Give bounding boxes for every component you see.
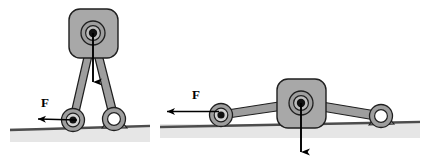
right-roller-joint: [210, 104, 233, 127]
figure-root: F: [0, 0, 424, 166]
right-force-label: F: [192, 87, 200, 102]
left-force-arrow: [38, 119, 77, 120]
left-pin-support-joint: [103, 108, 126, 131]
left-force-label: F: [41, 95, 49, 110]
right-pin-support-joint: [370, 105, 393, 128]
mechanism-diagram: F: [0, 0, 424, 166]
